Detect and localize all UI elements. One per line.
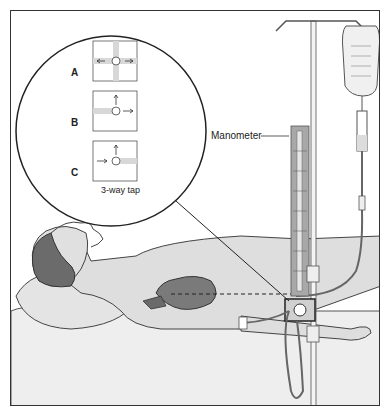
manometer-label: Manometer bbox=[211, 130, 262, 141]
cvp-measurement-illustration bbox=[11, 11, 380, 406]
panel-label-c: C bbox=[71, 167, 78, 178]
tap-panel-a bbox=[93, 41, 137, 81]
panel-label-b: B bbox=[71, 117, 78, 128]
tap-panel-c bbox=[93, 141, 137, 181]
iv-pole bbox=[311, 21, 316, 406]
illustration-frame: A B C 3-way tap Manometer bbox=[10, 10, 380, 406]
panel-label-a: A bbox=[71, 67, 78, 78]
iv-bag bbox=[342, 26, 379, 96]
inset-caption: 3-way tap bbox=[101, 185, 140, 195]
tap-panel-b bbox=[93, 91, 137, 131]
